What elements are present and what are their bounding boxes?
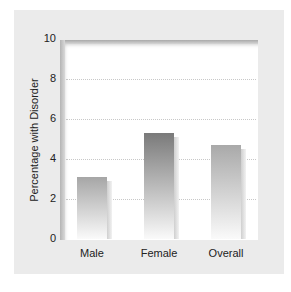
bar-shadow: [107, 181, 112, 239]
bar-shadow: [241, 149, 246, 239]
y-axis-label: Percentage with Disorder: [28, 78, 40, 202]
bar-female: [144, 133, 174, 239]
y-tick-label: 0: [36, 232, 56, 244]
bar-male: [77, 177, 107, 239]
bar-shadow: [174, 137, 179, 239]
x-tick-label: Male: [62, 247, 122, 259]
x-tick-label: Overall: [196, 247, 256, 259]
bar-overall: [211, 145, 241, 239]
gridline: [66, 119, 256, 120]
plot-bevel-top: [60, 40, 258, 44]
plot-bevel-left: [60, 40, 65, 240]
y-tick-label: 10: [36, 32, 56, 44]
x-tick-label: Female: [129, 247, 189, 259]
gridline: [66, 79, 256, 80]
